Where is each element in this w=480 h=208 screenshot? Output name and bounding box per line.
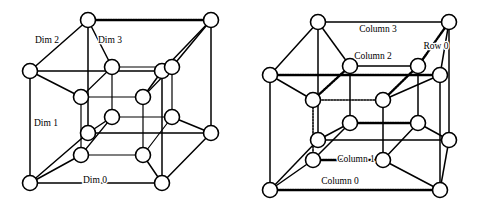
- node-outer-5: [204, 13, 219, 28]
- node-inner-15: [165, 110, 180, 125]
- rnode-outer-6: [311, 133, 326, 148]
- label-dim-0: Dim 0: [83, 175, 107, 185]
- rnode-inner-14: [343, 116, 358, 131]
- label-column-0: Column 0: [321, 176, 359, 186]
- label-dim-3: Dim 3: [98, 35, 122, 45]
- redge-cross-b: [383, 160, 440, 190]
- rnode-outer-7: [442, 133, 457, 148]
- rnode-outer-3: [433, 68, 448, 83]
- node-inner-14: [105, 110, 120, 125]
- node-inner-9: [136, 148, 151, 163]
- edge-dim3-a: [30, 155, 81, 183]
- edge-dim3-c: [30, 71, 81, 97]
- rnode-outer-4: [311, 15, 326, 30]
- node-inner-13: [165, 60, 180, 75]
- edge-dim2-top-left: [30, 20, 88, 71]
- label-column-3: Column 3: [359, 24, 397, 34]
- node-outer-1: [155, 176, 170, 191]
- label-dim-1: Dim 1: [34, 118, 58, 128]
- node-inner-10: [74, 90, 89, 105]
- label-column-2: Column 2: [354, 51, 392, 61]
- left-hypercube-panel: Dim 2 Dim 3 Dim 1 Dim 0: [0, 0, 240, 208]
- rnode-outer-2: [263, 68, 278, 83]
- left-hypercube-svg: Dim 2 Dim 3 Dim 1 Dim 0: [0, 0, 240, 208]
- node-outer-6: [81, 126, 96, 141]
- right-edges: [270, 22, 449, 190]
- node-outer-4: [81, 13, 96, 28]
- rnode-inner-13: [411, 59, 426, 74]
- rnode-inner-10: [306, 93, 321, 108]
- rnode-inner-15: [411, 116, 426, 131]
- rnode-inner-9: [376, 153, 391, 168]
- node-outer-7: [204, 126, 219, 141]
- rnode-inner-11: [376, 93, 391, 108]
- edge-dim3-f: [172, 20, 211, 67]
- redge-cross-d: [383, 75, 440, 100]
- rnode-outer-0: [263, 183, 278, 198]
- redge-depth-tl: [270, 22, 318, 75]
- label-column-1: Column 1: [337, 154, 375, 164]
- node-outer-2: [23, 64, 38, 79]
- rnode-inner-8: [306, 153, 321, 168]
- figure-root: Dim 2 Dim 3 Dim 1 Dim 0: [0, 0, 480, 208]
- right-hypercube-panel: Column 3 Row 0 Column 2 Column 1 Column …: [240, 0, 480, 208]
- node-inner-12: [105, 60, 120, 75]
- right-hypercube-svg: Column 3 Row 0 Column 2 Column 1 Column …: [240, 0, 480, 208]
- label-row-0: Row 0: [423, 41, 448, 51]
- edge-dim2-bottom-right: [162, 133, 211, 183]
- node-inner-11: [136, 90, 151, 105]
- rnode-outer-5: [442, 15, 457, 30]
- node-outer-0: [23, 176, 38, 191]
- rnode-outer-1: [433, 183, 448, 198]
- node-inner-8: [74, 148, 89, 163]
- label-dim-2: Dim 2: [35, 35, 59, 45]
